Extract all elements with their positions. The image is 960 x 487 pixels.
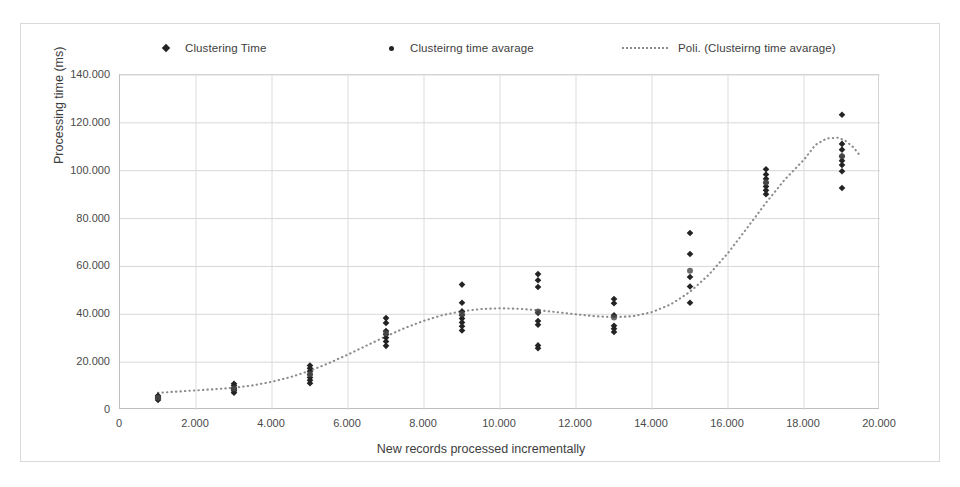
data-layer [120,75,880,410]
x-tick-label: 6.000 [333,417,361,429]
y-tick-label: 140.000 [70,68,110,80]
legend-label-clustering-time: Clustering Time [185,42,266,54]
dotted-line-marker-icon [622,47,668,49]
y-axis-title: Processing time (ms) [52,47,66,164]
x-tick-label: 10.000 [482,417,516,429]
dot-marker-icon [389,46,394,51]
y-tick-label: 80.000 [76,212,110,224]
chart-legend: Clustering Time Clusteirng time avarage … [21,38,941,62]
y-tick-label: 20.000 [76,355,110,367]
plot-wrapper: 020.00040.00060.00080.000100.000120.0001… [119,74,879,409]
legend-label-polynomial-trendline: Poli. (Clusteirng time avarage) [678,42,836,54]
y-tick-label: 60.000 [76,259,110,271]
legend-label-clustering-average: Clusteirng time avarage [410,42,534,54]
legend-item-polynomial-trendline[interactable]: Poli. (Clusteirng time avarage) [622,38,836,58]
y-tick-label: 0 [104,403,110,415]
x-tick-label: 2.000 [181,417,209,429]
diamond-marker-icon [162,44,170,52]
x-tick-label: 8.000 [409,417,437,429]
legend-item-clustering-average[interactable]: Clusteirng time avarage [389,38,534,58]
legend-item-clustering-time[interactable]: Clustering Time [163,38,266,58]
screenshot-root: Clustering Time Clusteirng time avarage … [0,0,960,487]
chart-container: Clustering Time Clusteirng time avarage … [20,23,940,462]
x-tick-label: 14.000 [634,417,668,429]
y-tick-label: 100.000 [70,164,110,176]
x-tick-label: 12.000 [558,417,592,429]
x-tick-label: 20.000 [862,417,896,429]
y-tick-label: 120.000 [70,116,110,128]
y-tick-label: 40.000 [76,307,110,319]
x-tick-label: 18.000 [786,417,820,429]
x-tick-label: 16.000 [710,417,744,429]
plot-area [119,74,879,409]
x-tick-label: 4.000 [257,417,285,429]
x-tick-label: 0 [116,417,122,429]
x-axis-title: New records processed incrementally [21,442,941,456]
